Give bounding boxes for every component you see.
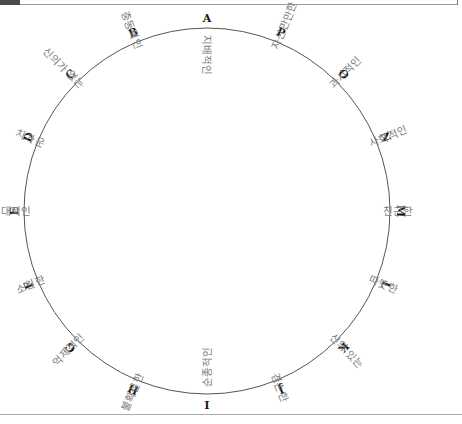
segment-trait-h: 불확실한: [119, 371, 145, 413]
segment-trait-g: 억제적인: [50, 331, 87, 368]
segment-trait-f: 소원한: [14, 273, 46, 296]
segment-trait-l: 따뜻한: [367, 273, 399, 296]
segment-trait-d: 차가운: [14, 127, 46, 150]
segment-trait-b: 충동적인: [119, 9, 145, 51]
segment-trait-m: 친근한: [383, 205, 413, 217]
segment-trait-j: 겸손한: [269, 371, 292, 403]
segment-trait-k: 신의 있는: [327, 331, 366, 370]
segment-trait-a: 지배적인: [201, 35, 213, 75]
segment-labels: A지배적인B충동적인C신의가 없는D차가운E적대적인F소원한G억제적인H불확실한…: [0, 0, 413, 413]
segment-trait-c: 신의가 없는: [41, 45, 87, 91]
segment-trait-e: 적대적인: [0, 205, 31, 217]
segment-letter-i: I: [204, 398, 209, 411]
interpersonal-circle-diagram: A지배적인B충동적인C신의가 없는D차가운E적대적인F소원한G억제적인H불확실한…: [0, 0, 462, 424]
segment-trait-n: 사회적인: [367, 123, 409, 149]
segment-letter-a: A: [202, 12, 212, 25]
segment-trait-p: 자신만만한: [269, 0, 299, 51]
bottom-rule: [0, 414, 462, 415]
segment-trait-o: 과시적인: [327, 54, 364, 91]
segment-trait-i: 순종적인: [201, 347, 213, 387]
